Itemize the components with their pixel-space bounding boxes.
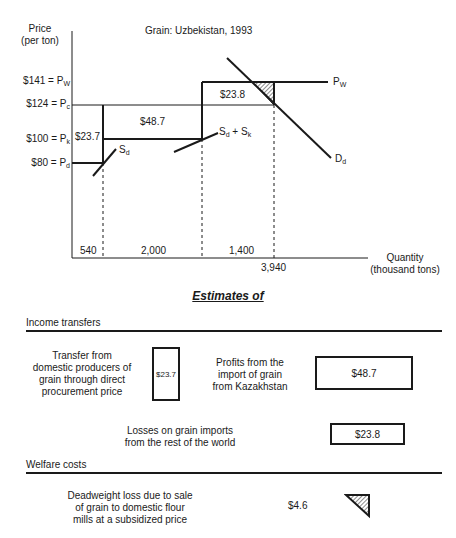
profits-value-box: $48.7: [315, 356, 413, 390]
income-transfers-label: Income transfers: [26, 317, 100, 329]
estimates-heading: Estimates of: [0, 289, 456, 303]
transfer-description: Transfer from domestic producers of grai…: [24, 350, 140, 398]
deadweight-value: $4.6: [288, 500, 307, 512]
supply-demand-diagram: [0, 0, 456, 290]
x-axis-label-line1: Quantity: [360, 252, 450, 264]
dd-curve-label: Dd: [335, 153, 346, 168]
pw-curve-label: PW: [333, 76, 346, 91]
losses-description: Losses on grain imports from the rest of…: [115, 425, 245, 449]
sd-curve-label: Sd: [119, 144, 130, 159]
area-label-world: $23.8: [220, 89, 245, 101]
x-axis-label-line2: (thousand tons): [360, 264, 450, 276]
transfer-value-box: $23.7: [152, 347, 180, 401]
quantity-label-1400: 1,400: [229, 245, 254, 257]
quantity-label-2000: 2,000: [141, 245, 166, 257]
area-label-procurement: $23.7: [75, 131, 100, 143]
welfare-costs-divider: [26, 472, 442, 474]
welfare-costs-label: Welfare costs: [26, 459, 86, 471]
sdsk-curve: [174, 133, 218, 152]
area-label-kazakhstan: $48.7: [140, 116, 165, 128]
sdsk-curve-label: Sd + Sk: [219, 126, 251, 141]
losses-value-box: $23.8: [330, 423, 405, 445]
quantity-total-label: 3,940: [261, 262, 286, 274]
demand-curve: [227, 58, 331, 158]
profits-description: Profits from the import of grain from Ka…: [200, 357, 300, 393]
deadweight-description: Deadweight loss due to sale of grain to …: [60, 490, 200, 526]
income-transfers-divider: [26, 330, 442, 332]
deadweight-triangle-icon: [344, 492, 372, 520]
x-axis-label: Quantity (thousand tons): [360, 252, 450, 276]
quantity-label-540: 540: [80, 245, 97, 257]
